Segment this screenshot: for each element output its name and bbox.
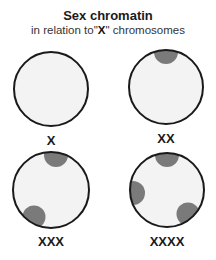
barr-body <box>155 143 179 167</box>
barr-body <box>121 181 145 205</box>
nucleus-label: XX <box>157 131 175 146</box>
nucleus-label: X <box>47 133 56 148</box>
nucleus-xxx: XXX <box>13 143 89 249</box>
nucleus-label: XXXX <box>150 234 185 249</box>
barr-body <box>154 40 178 64</box>
nucleus-xx: XX <box>129 40 203 146</box>
nucleus-x: X <box>14 52 88 148</box>
nucleus-xxxx: XXXX <box>121 143 204 249</box>
nucleus-outline <box>14 52 88 126</box>
nucleus-label: XXX <box>38 234 64 249</box>
nuclei-diagram: X XX XXX XXXX <box>0 0 216 260</box>
